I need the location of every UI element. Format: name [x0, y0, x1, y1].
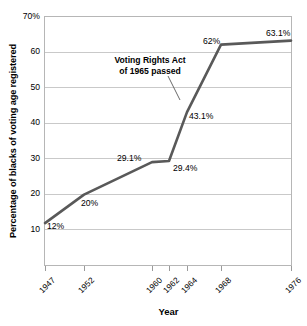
- point-label-1962: 29.4%: [173, 163, 197, 173]
- annotation-line-1: Voting Rights Act: [106, 55, 194, 66]
- annotation-voting-rights-act: Voting Rights Act of 1965 passed: [106, 55, 194, 77]
- point-label-1952: 20%: [81, 198, 98, 208]
- series-line-svg: [0, 0, 307, 326]
- point-label-1968: 62%: [203, 36, 220, 46]
- point-label-1947: 12%: [47, 221, 64, 231]
- point-label-1964: 43.1%: [189, 111, 213, 121]
- point-label-1960: 29.1%: [117, 153, 141, 163]
- annotation-leader-line: [168, 76, 180, 100]
- x-axis-title: Year: [44, 306, 293, 317]
- chart-container: Percentage of blacks of voting age regis…: [0, 0, 307, 326]
- annotation-line-2: of 1965 passed: [106, 66, 194, 77]
- point-label-1976: 63.1%: [266, 28, 290, 38]
